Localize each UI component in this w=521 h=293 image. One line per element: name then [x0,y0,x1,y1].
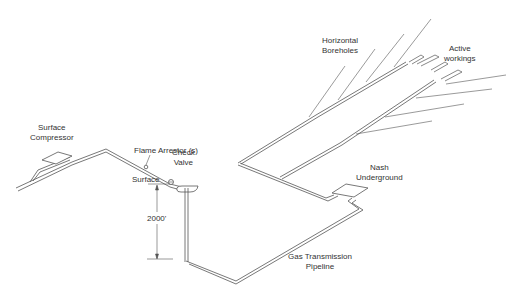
label-line: Nash [356,163,403,173]
label-surface-compressor: Surface Compressor [30,123,74,143]
surface-compressor-icon [42,152,72,164]
horizontal-boreholes [309,19,431,117]
diagram-svg [0,0,521,293]
label-line: Horizontal [322,36,358,46]
label-line: Boreholes [322,46,358,56]
diagram-canvas: Surface Compressor Flame Arrestor (s) Ch… [0,0,521,293]
well-head-icon [177,186,198,192]
label-surface: Surface [132,175,160,185]
flame-arrestor-icon [144,165,148,169]
label-line: Active [444,44,476,54]
label-gas-transmission-pipeline: Gas Transmission Pipeline [288,252,352,272]
label-line: Check [172,148,195,158]
label-active-workings: Active workings [444,44,476,64]
label-line: Underground [356,173,403,183]
nash-to-panel-pipeline [238,163,338,201]
vertical-shaft-pipe [185,188,188,262]
label-line: workings [444,54,476,64]
label-line: Surface [30,123,74,133]
label-line: Pipeline [288,262,352,272]
label-line: Gas Transmission [288,252,352,262]
label-line: Valve [172,158,195,168]
upper-gate-pipeline [238,62,408,164]
lower-boreholes [356,75,506,134]
label-horizontal-boreholes: Horizontal Boreholes [322,36,358,56]
label-line: Compressor [30,133,74,143]
label-depth: 2000' [147,214,166,224]
nash-underground-pump-icon [332,184,368,197]
label-nash-underground: Nash Underground [356,163,403,183]
label-check-valve: Check Valve [172,148,195,168]
